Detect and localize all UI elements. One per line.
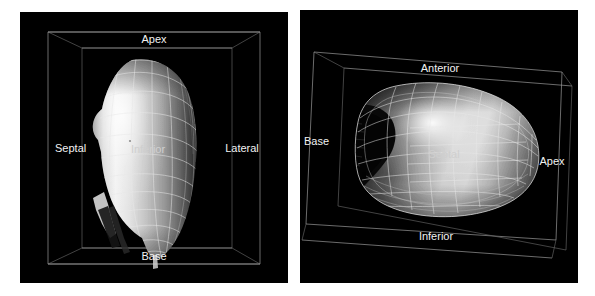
surface-marker-dot [129,140,131,142]
label-septal-center: Septal [428,148,459,160]
label-septal-left: Septal [55,142,86,154]
label-inferior-bottom: Inferior [419,230,454,242]
label-base-bottom: Base [141,250,166,262]
label-apex-top: Apex [141,33,167,45]
label-apex-right: Apex [539,155,565,167]
left-panel-render: Apex Septal Inferior Lateral Base [20,12,288,283]
panel-left-ventricle-lateral-view[interactable]: Apex Septal Inferior Lateral Base [20,12,288,283]
label-lateral-right: Lateral [225,142,259,154]
label-inferior-center: Inferior [131,143,166,155]
figure-container: Apex Septal Inferior Lateral Base [0,0,595,296]
label-anterior-top: Anterior [421,62,460,74]
panel-left-ventricle-long-axis-view[interactable]: Anterior Base Septal Apex Inferior [300,10,578,283]
label-base-left: Base [304,135,329,147]
right-panel-render: Anterior Base Septal Apex Inferior [300,10,578,283]
